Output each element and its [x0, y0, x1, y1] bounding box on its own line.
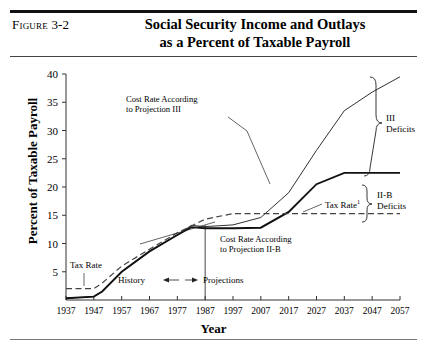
x-tick-label: 1987 [196, 306, 215, 316]
x-tick-label: 2047 [363, 306, 382, 316]
leader-line-tax-rate-right [303, 204, 322, 212]
x-tick-label: 1947 [84, 306, 103, 316]
x-tick-label: 2057 [391, 306, 410, 316]
footer-rule [10, 339, 417, 340]
leader-line-cost-rate-iib [140, 222, 215, 244]
x-tick-label: 2027 [307, 306, 326, 316]
y-tick-label: 25 [47, 153, 59, 165]
x-axis-ticks: 1937194719571967197719871997200720172027… [57, 296, 410, 316]
y-tick-label: 20 [47, 181, 59, 193]
x-tick-label: 1937 [57, 306, 76, 316]
tax-rate-label-right-superscript: 1 [357, 199, 360, 205]
brace-iib-label-line-2: Deficits [377, 201, 407, 211]
figure-label-word: Figure [12, 17, 48, 32]
cost-rate-iib-label-line-2: to Projection II-B [220, 244, 281, 254]
cost-rate-iii-label-line-2: to Projection III [126, 104, 181, 114]
header-rule-top [10, 10, 417, 13]
y-tick-label: 35 [47, 96, 59, 108]
history-projections-arrows [163, 277, 198, 282]
x-tick-label: 2037 [335, 306, 354, 316]
y-axis-ticks: 510152025303540 [47, 68, 66, 278]
y-tick-label: 5 [53, 266, 59, 278]
projections-label: Projections [203, 275, 244, 285]
x-axis-title: Year [0, 321, 427, 337]
x-tick-label: 1957 [112, 306, 131, 316]
y-tick-label: 30 [47, 125, 59, 137]
series-cost-rate-projection-iii [66, 77, 400, 298]
y-tick-label: 40 [47, 68, 59, 80]
figure-container: Figure 3-2 Social Security Income and Ou… [0, 0, 427, 348]
brace-iib-label-line-1: II-B [377, 190, 392, 200]
leader-line-cost-rate-iii [228, 117, 270, 184]
y-tick-label: 10 [47, 238, 59, 250]
header-rule-bottom [10, 56, 417, 57]
brace-iib [362, 185, 372, 222]
tax-rate-label-right: Tax Rate1 [325, 199, 360, 210]
chart-title-line-1: Social Security Income and Outlays [95, 15, 415, 33]
tax-rate-label-left: Tax Rate [70, 260, 102, 270]
x-tick-label: 1967 [140, 306, 159, 316]
brace-iii-label-line-1: III [386, 113, 395, 123]
x-tick-label: 2017 [279, 306, 298, 316]
tax-rate-label-right-text: Tax Rate [325, 200, 357, 210]
x-tick-label: 2007 [251, 306, 270, 316]
figure-label-number: 3-2 [51, 17, 69, 32]
plot-area: Percent of Taxable Payroll Year 51015202… [0, 58, 427, 348]
y-axis-title: Percent of Taxable Payroll [25, 76, 41, 266]
chart-title-line-2: as a Percent of Taxable Payroll [95, 33, 415, 51]
brace-iii-label-line-2: Deficits [386, 124, 416, 134]
x-tick-label: 1977 [168, 306, 187, 316]
cost-rate-iib-label-line-1: Cost Rate According [220, 234, 292, 244]
y-tick-label: 15 [47, 209, 59, 221]
history-label: History [118, 275, 146, 285]
chart-title: Social Security Income and Outlays as a … [95, 15, 415, 51]
cost-rate-iii-label-line-1: Cost Rate According [126, 94, 198, 104]
figure-label: Figure 3-2 [12, 17, 69, 33]
x-tick-label: 1997 [224, 306, 243, 316]
chart-svg: 510152025303540 193719471957196719771987… [0, 58, 427, 348]
